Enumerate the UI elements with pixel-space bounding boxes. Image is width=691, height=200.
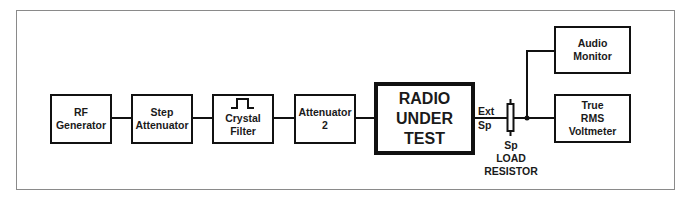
resistor-label-line: LOAD [496, 152, 526, 165]
block-label-line: Crystal [225, 112, 261, 125]
block-label-line: Monitor [573, 50, 612, 63]
block-label-line: Voltmeter [569, 125, 617, 138]
block-label-line: True [581, 99, 603, 112]
block-label-line: RMS [581, 112, 604, 125]
load-resistor-icon [508, 99, 514, 136]
block-label-line: Audio [578, 37, 608, 50]
block-label-line: TEST [404, 129, 445, 149]
block-radio-under-test: RADIO UNDER TEST [374, 82, 475, 155]
block-label-line: Attenuator [135, 119, 188, 132]
sp-label: Sp [478, 119, 491, 132]
block-label-line: Attenuator [298, 106, 351, 119]
load-resistor-label: Sp LOAD RESISTOR [478, 139, 544, 178]
junction-dot-icon [525, 116, 530, 121]
resistor-label-line: RESISTOR [484, 165, 537, 178]
block-rf-generator: RF Generator [50, 94, 112, 144]
ext-label: Ext [478, 105, 494, 118]
block-audio-monitor: Audio Monitor [554, 26, 631, 74]
resistor-label-line: Sp [504, 139, 517, 152]
block-label-line: Filter [230, 125, 256, 138]
block-true-rms-voltmeter: True RMS Voltmeter [554, 94, 631, 143]
block-attenuator-2: Attenuator 2 [294, 94, 356, 144]
block-label-line: 2 [322, 119, 328, 132]
block-label-line: RADIO [399, 89, 451, 109]
block-label-line: UNDER [396, 109, 453, 129]
block-crystal-filter: Crystal Filter [212, 94, 274, 144]
block-label-line: Generator [56, 119, 106, 132]
block-step-attenuator: Step Attenuator [131, 94, 193, 144]
block-label-line: RF [74, 106, 88, 119]
block-label-line: Step [151, 106, 174, 119]
